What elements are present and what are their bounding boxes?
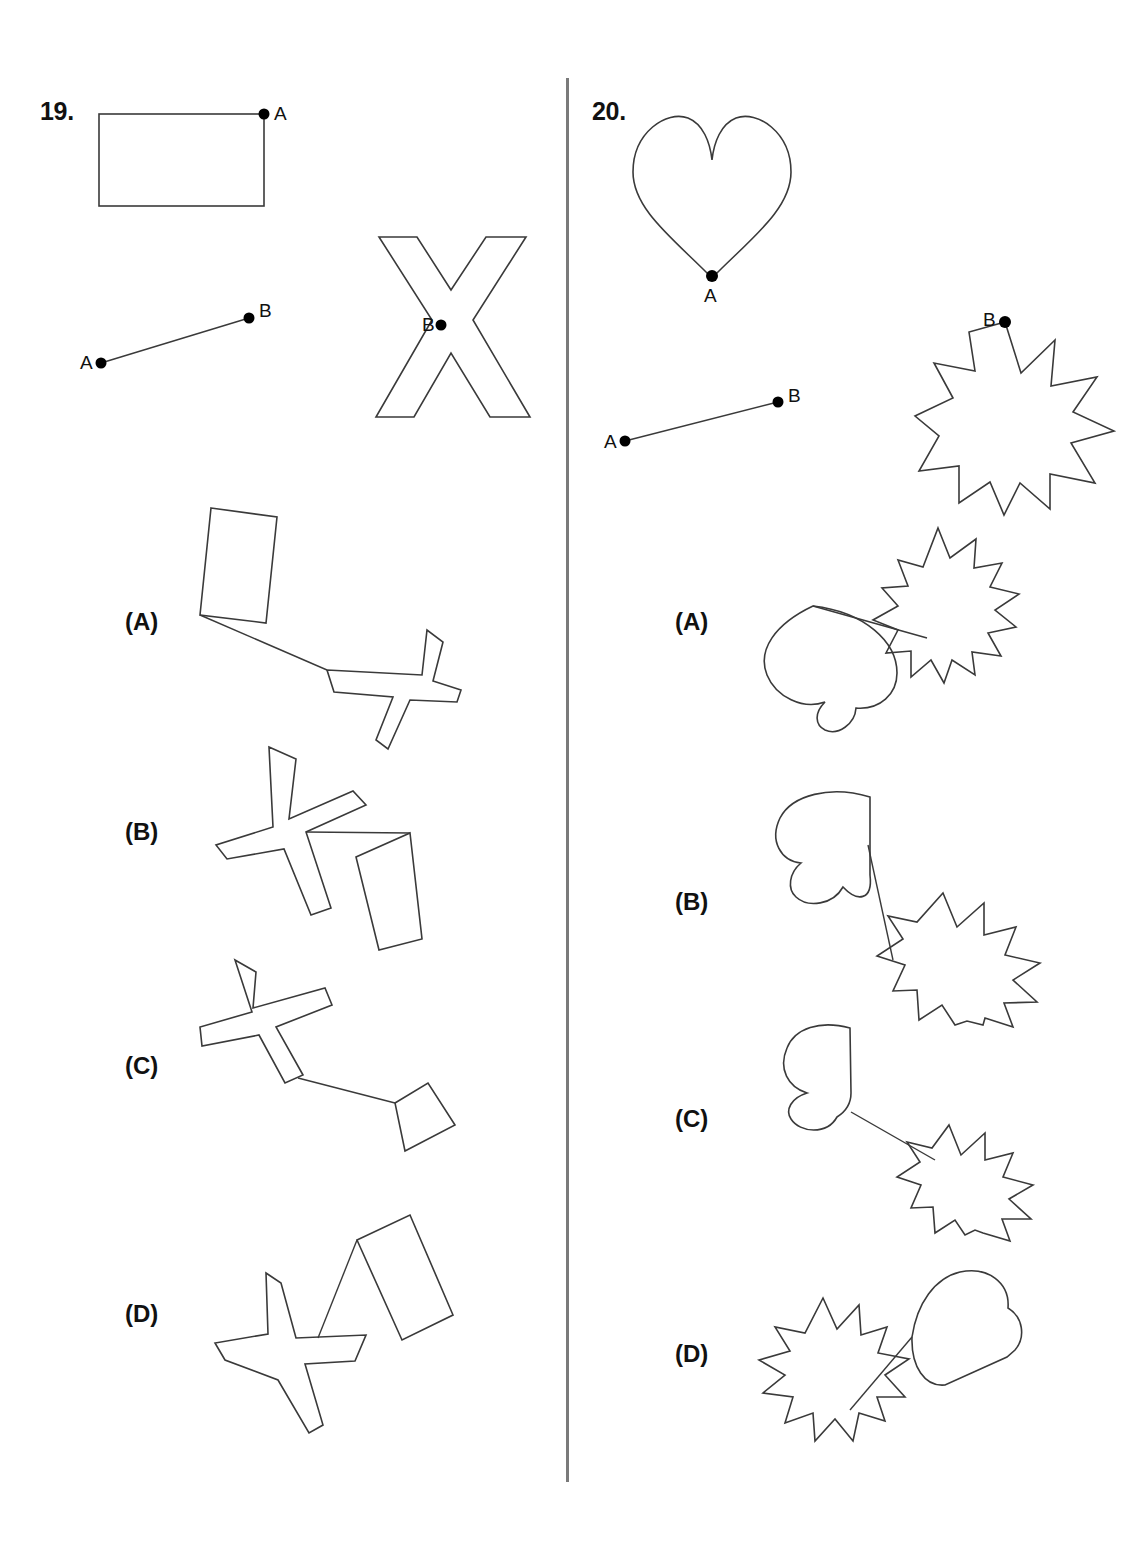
- q20-option-b-figure[interactable]: [745, 775, 1045, 1025]
- q19-option-a-label[interactable]: (A): [125, 608, 158, 636]
- q19-prompt-x-cross: B: [370, 228, 550, 433]
- q19-option-d-label[interactable]: (D): [125, 1300, 158, 1328]
- point-a-dot: [620, 436, 631, 447]
- point-b-dot: [244, 313, 255, 324]
- point-a-label: A: [704, 285, 717, 306]
- q19-option-b-label[interactable]: (B): [125, 818, 158, 846]
- point-b-label: B: [983, 309, 996, 330]
- q20-prompt-line-segment: A B: [600, 380, 820, 470]
- q19-option-c-label[interactable]: (C): [125, 1052, 158, 1080]
- q19-prompt-rectangle: A: [90, 100, 300, 225]
- q19-option-d-figure[interactable]: [190, 1205, 490, 1445]
- q19-option-b-figure[interactable]: [190, 735, 490, 980]
- q20-option-a-figure[interactable]: [745, 520, 1045, 750]
- q20-option-d-label[interactable]: (D): [675, 1340, 708, 1368]
- point-a-dot: [259, 109, 270, 120]
- point-a-label: A: [604, 431, 617, 452]
- column-divider: [566, 78, 569, 1482]
- question-number-19: 19.: [40, 97, 74, 126]
- q19-option-a-figure[interactable]: [190, 495, 470, 755]
- q19-prompt-line-segment: A B: [72, 300, 292, 390]
- q20-option-c-figure[interactable]: [745, 1005, 1045, 1235]
- q20-option-a-label[interactable]: (A): [675, 608, 708, 636]
- point-b-label: B: [259, 300, 272, 321]
- point-b-dot: [773, 397, 784, 408]
- point-a-label: A: [274, 103, 287, 124]
- q20-option-b-label[interactable]: (B): [675, 888, 708, 916]
- point-b-dot: [436, 320, 447, 331]
- q20-option-c-label[interactable]: (C): [675, 1105, 708, 1133]
- point-b-label: B: [422, 314, 435, 335]
- q20-prompt-star: B: [915, 300, 1115, 515]
- point-b-label: B: [788, 385, 801, 406]
- point-b-dot: [999, 316, 1011, 328]
- point-a-label: A: [80, 352, 93, 373]
- q19-option-c-figure[interactable]: [180, 955, 490, 1185]
- q20-option-d-figure[interactable]: [745, 1245, 1045, 1485]
- point-a-dot: [96, 358, 107, 369]
- worksheet-page: 19. A A B B (A) (B: [0, 0, 1128, 1541]
- q20-prompt-heart: A: [615, 100, 815, 310]
- point-a-dot: [706, 270, 718, 282]
